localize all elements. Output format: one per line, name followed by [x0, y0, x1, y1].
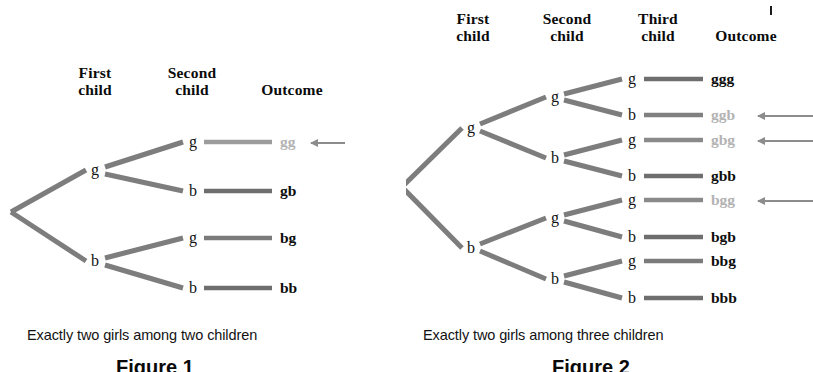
- node-level2-b-1: b: [184, 183, 202, 199]
- probability-tree-two-children: First child Second child Outcome g b g b…: [0, 0, 406, 372]
- branch-b-to-bb: [480, 251, 546, 279]
- node-level3-g-2: g: [623, 132, 641, 148]
- outcome-ggg: ggg: [711, 71, 734, 87]
- arrow-to-bgg: [757, 197, 813, 205]
- column-header-first-child: First child: [60, 64, 130, 98]
- outcome-ggb: ggb: [711, 107, 735, 123]
- branch-root-to-g: [11, 170, 86, 212]
- panel-caption-three-children: Exactly two girls among three children: [423, 327, 663, 343]
- tree-lines-three-children: [406, 0, 813, 372]
- outcome-bg: bg: [280, 230, 296, 246]
- figure-page: First child Second child Outcome g b g b…: [0, 0, 813, 372]
- branch-root-to-b: [11, 212, 86, 261]
- arrow-to-ggb: [757, 112, 813, 120]
- scan-artifact-speck: [770, 6, 772, 15]
- node-level2-b-1: b: [546, 150, 564, 166]
- branch-g-to-gg: [105, 142, 183, 167]
- panel-caption-two-children: Exactly two girls among two children: [27, 327, 257, 343]
- column-header-second-child: Second child: [524, 10, 610, 44]
- arrow-to-gg: [310, 139, 345, 147]
- branch-bb-to-bbb: [564, 282, 622, 298]
- branch-g-to-gb: [480, 131, 546, 158]
- outcome-bbb: bbb: [711, 290, 737, 306]
- tree-lines-two-children: [0, 0, 406, 372]
- branch-bg-to-bgb: [564, 221, 622, 237]
- outcome-gg: gg: [280, 134, 296, 150]
- outcome-bgb: bgb: [711, 229, 736, 245]
- node-level3-g-1: g: [623, 71, 641, 87]
- node-level3-g-3: g: [623, 192, 641, 208]
- branch-gg-to-ggg: [564, 79, 622, 94]
- outcome-gb: gb: [280, 183, 296, 199]
- arrow-to-gbg: [757, 137, 813, 145]
- node-level1-g: g: [86, 162, 104, 178]
- column-header-outcome: Outcome: [247, 81, 337, 98]
- branch-gb-to-gbb: [564, 161, 622, 176]
- branch-g-to-gg: [480, 97, 546, 124]
- branch-root-to-b: [406, 187, 462, 248]
- node-level2-g-1: g: [184, 134, 202, 150]
- branch-gg-to-ggb: [564, 100, 622, 115]
- outcome-gbb: gbb: [711, 168, 736, 184]
- branch-b-to-bb: [105, 265, 183, 288]
- node-level2-g-1: g: [546, 89, 564, 105]
- node-level2-b-2: b: [546, 271, 564, 287]
- node-level3-b-3: b: [623, 229, 641, 245]
- node-level2-b-2: b: [184, 280, 202, 296]
- node-level2-g-2: g: [184, 230, 202, 246]
- node-level3-b-1: b: [623, 107, 641, 123]
- branch-root-to-g: [406, 128, 462, 187]
- branch-gb-to-gbg: [564, 140, 622, 155]
- branch-bg-to-bgg: [564, 200, 622, 215]
- probability-tree-three-children: First child Second child Third child Out…: [406, 0, 813, 372]
- node-level2-g-2: g: [546, 210, 564, 226]
- node-level1-b: b: [86, 253, 104, 269]
- node-level3-b-2: b: [623, 168, 641, 184]
- branch-bb-to-bbg: [564, 261, 622, 276]
- column-header-second-child: Second child: [152, 64, 232, 98]
- column-header-outcome: Outcome: [700, 27, 792, 44]
- outcome-bbg: bbg: [711, 253, 736, 269]
- branch-g-to-gb: [105, 174, 183, 191]
- node-level1-g: g: [462, 120, 480, 136]
- node-level3-g-4: g: [623, 253, 641, 269]
- outcome-gbg: gbg: [711, 132, 735, 148]
- outcome-bgg: bgg: [711, 192, 735, 208]
- node-level3-b-4: b: [623, 290, 641, 306]
- figure-label-1: Figure 1: [116, 357, 194, 372]
- column-header-first-child: First child: [437, 10, 509, 44]
- branch-b-to-bg: [480, 218, 546, 244]
- column-header-third-child: Third child: [622, 10, 694, 44]
- outcome-bb: bb: [280, 280, 297, 296]
- figure-label-2: Figure 2: [552, 357, 630, 372]
- branch-b-to-bg: [105, 238, 183, 258]
- node-level1-b: b: [462, 240, 480, 256]
